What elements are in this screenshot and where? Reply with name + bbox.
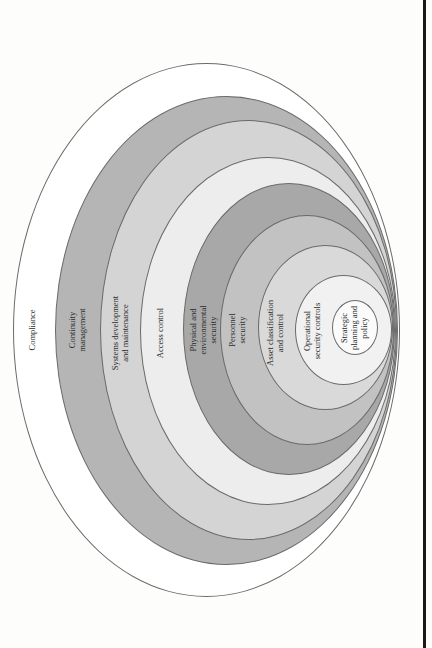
label-systems-development: Systems development and maintenance: [110, 296, 130, 370]
scanned-page: Compliance Continuity management Systems…: [0, 0, 432, 648]
label-asset-classification: Asset classification and control: [265, 300, 285, 366]
label-compliance: Compliance: [27, 309, 37, 350]
label-strategic-planning-policy: Strategic planning and policy: [339, 306, 369, 350]
page-edge-border: [423, 0, 426, 648]
label-continuity-management: Continuity management: [67, 308, 87, 351]
label-physical-environmental-security: Physical and environmental security: [188, 305, 218, 354]
security-domains-diagram: Compliance Continuity management Systems…: [0, 0, 432, 648]
label-personnel-security: Personnel security: [227, 313, 247, 347]
label-operational-security-controls: Operational security controls: [302, 303, 322, 359]
label-access-control: Access control: [155, 308, 165, 358]
